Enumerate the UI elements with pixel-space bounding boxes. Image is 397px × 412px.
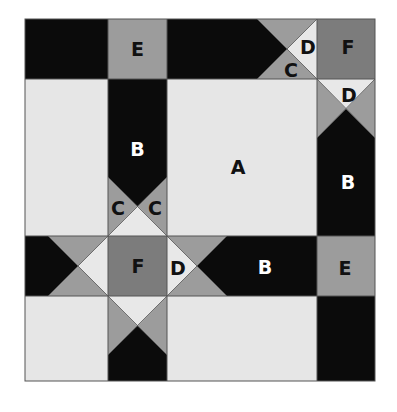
label-c-top-right: C (148, 197, 162, 219)
label-b-right-column: B (341, 171, 355, 193)
label-a-center: A (231, 156, 246, 178)
label-d-corner-below: D (341, 84, 357, 106)
label-f-center: F (132, 255, 145, 277)
label-e-top: E (131, 38, 144, 60)
label-b-top-arm: B (130, 138, 144, 160)
label-c-corner: C (284, 59, 298, 81)
label-d-corner-left: D (300, 36, 316, 58)
top-left-black-square (25, 19, 108, 79)
bottom-right-black (317, 296, 375, 381)
quilt-diagram: E D C F D B A B C C F D B E (0, 0, 397, 412)
label-f-corner: F (342, 36, 355, 58)
label-d-middle: D (170, 257, 186, 279)
label-e-right: E (339, 257, 352, 279)
label-b-middle-row: B (258, 256, 272, 278)
label-c-top-left: C (111, 197, 125, 219)
